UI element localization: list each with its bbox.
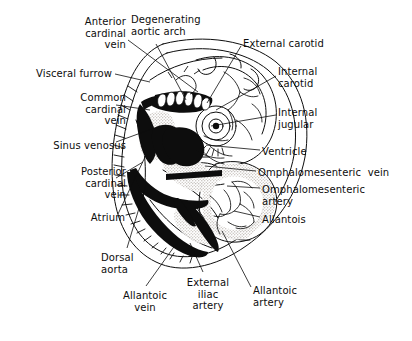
- label-sinus-venosus: Sinus venosus: [24, 140, 126, 152]
- black-vessel-group: [127, 91, 222, 257]
- leader-external-carotid: [207, 46, 241, 103]
- label-posterior-cardinal-vein: Posterior cardinal vein: [48, 166, 126, 201]
- label-allantois: Allantois: [262, 214, 334, 226]
- label-anterior-cardinal-vein: Anterior cardinal vein: [50, 16, 126, 51]
- label-ventricle: Ventricle: [262, 146, 334, 158]
- label-dorsal-aorta: Dorsal aorta: [101, 252, 151, 275]
- label-internal-carotid: Internal carotid: [278, 66, 344, 89]
- label-omphalomesenteric-artery: Omphalomesenteric artery: [262, 184, 400, 207]
- label-allantoic-vein: Allantoic vein: [117, 290, 173, 313]
- label-allantoic-artery: Allantoic artery: [253, 285, 311, 308]
- forebrain-outline: [203, 66, 266, 134]
- label-atrium: Atrium: [63, 212, 125, 224]
- eye-lens-circle: [213, 123, 219, 129]
- label-degenerating-aortic-arch: Degenerating aortic arch: [131, 14, 227, 37]
- label-common-cardinal-vein: Common cardinal vein: [50, 92, 126, 127]
- leader-internal-carotid: [216, 76, 276, 110]
- leader-allantois: [234, 211, 260, 217]
- leader-omphalomesenteric-artery: [227, 186, 260, 188]
- label-omphalomesenteric-vein: Omphalomesenteric vein: [258, 167, 410, 179]
- label-internal-jugular: Internal jugular: [278, 107, 344, 130]
- embryo-circulation-figure: Anterior cardinal vein Degenerating aort…: [0, 0, 412, 341]
- label-external-carotid: External carotid: [243, 38, 347, 50]
- label-visceral-furrow: Visceral furrow: [12, 68, 112, 80]
- label-external-iliac-artery: External iliac artery: [181, 277, 235, 312]
